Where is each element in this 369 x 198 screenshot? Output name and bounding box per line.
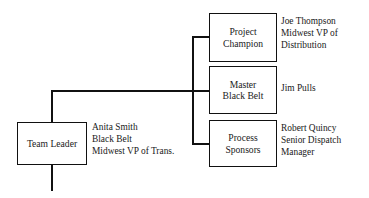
node-label-line: Process: [228, 132, 257, 143]
node-label-line: Champion: [223, 38, 263, 49]
person-role: Senior Dispatch: [281, 135, 341, 147]
connector-vertical-trunk: [192, 37, 194, 145]
node-box-process-sponsors[interactable]: Process Sponsors: [209, 120, 277, 167]
node-label-line: Black Belt: [223, 90, 264, 101]
connector-team-leader-horizontal: [51, 90, 210, 92]
node-box-master-black-belt[interactable]: Master Black Belt: [209, 66, 277, 114]
node-box-team-leader[interactable]: Team Leader: [17, 122, 87, 165]
person-title: Manager: [281, 147, 341, 159]
person-name: Joe Thompson: [281, 16, 338, 28]
side-label-master-black-belt: Jim Pulls: [281, 83, 316, 95]
node-label-line: Project: [229, 26, 256, 37]
side-label-process-sponsors: Robert Quincy Senior Dispatch Manager: [281, 123, 341, 159]
node-label-line: Team Leader: [27, 138, 77, 149]
person-title: Distribution: [281, 40, 338, 52]
side-label-team-leader: Anita Smith Black Belt Midwest VP of Tra…: [92, 122, 174, 158]
connector-stub-project-champion: [192, 36, 210, 38]
person-name: Jim Pulls: [281, 83, 316, 95]
connector-stub-process-sponsors: [192, 143, 210, 145]
node-label-line: Sponsors: [225, 144, 260, 155]
org-chart-diagram: Team Leader Anita Smith Black Belt Midwe…: [0, 0, 369, 198]
person-role: Midwest VP of: [281, 28, 338, 40]
person-role: Black Belt: [92, 134, 174, 146]
person-name: Anita Smith: [92, 122, 174, 134]
side-label-project-champion: Joe Thompson Midwest VP of Distribution: [281, 16, 338, 52]
person-name: Robert Quincy: [281, 123, 341, 135]
connector-team-leader-down: [51, 164, 53, 191]
node-box-project-champion[interactable]: Project Champion: [209, 13, 277, 62]
person-title: Midwest VP of Trans.: [92, 146, 174, 158]
connector-team-leader-up: [51, 90, 53, 123]
node-label-line: Master: [230, 79, 257, 90]
